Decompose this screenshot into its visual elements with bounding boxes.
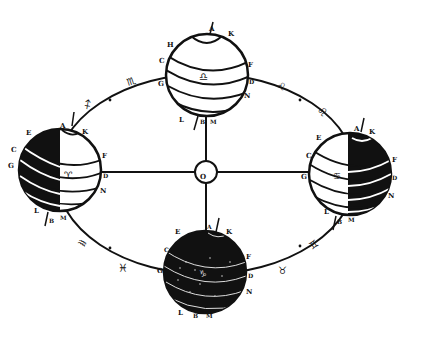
svg-text:G: G (8, 161, 14, 170)
sun-label: O (200, 172, 206, 181)
sun: O (195, 161, 217, 183)
svg-text:E: E (175, 227, 180, 236)
svg-text:A: A (208, 24, 215, 33)
svg-text:H: H (167, 40, 174, 49)
svg-text:D: D (392, 174, 397, 181)
zodiac-aquarius-icon: ♒ (75, 235, 90, 251)
svg-text:L: L (179, 115, 184, 124)
svg-text:F: F (248, 60, 253, 69)
seasons-orbit-diagram: O ♎ A K H C G F D N L B M (0, 0, 422, 343)
svg-text:F: F (102, 151, 107, 160)
svg-text:C: C (306, 151, 312, 160)
svg-text:K: K (226, 227, 233, 236)
globe-left: ♈ A K E C G F D N L B M (8, 112, 108, 226)
svg-text:B: B (337, 218, 342, 225)
svg-text:B: B (49, 217, 54, 224)
globe-left-sign: ♈ (64, 170, 73, 180)
globe-right: ♋ A K E C G F D N L B M (301, 118, 397, 230)
svg-text:F: F (392, 155, 397, 164)
svg-text:D: D (249, 78, 254, 85)
svg-text:C: C (164, 246, 169, 253)
svg-text:N: N (246, 287, 253, 296)
svg-text:B: B (200, 118, 205, 125)
svg-text:B: B (193, 312, 198, 319)
svg-text:L: L (178, 308, 183, 317)
svg-text:M: M (210, 118, 217, 125)
svg-text:N: N (388, 191, 395, 200)
zodiac-pisces-icon: ♓ (118, 262, 128, 275)
svg-text:D: D (103, 172, 108, 179)
globe-top-sign: ♎ (199, 71, 208, 82)
svg-text:K: K (82, 127, 89, 136)
svg-text:F: F (246, 252, 251, 261)
svg-text:L: L (34, 206, 39, 215)
svg-text:M: M (348, 216, 355, 223)
svg-text:L: L (324, 207, 329, 216)
svg-text:G: G (301, 172, 307, 181)
svg-text:N: N (100, 186, 107, 195)
globe-bottom: ♑ A K E C G F D N L B M (157, 218, 253, 319)
svg-text:M: M (206, 312, 213, 319)
svg-text:D: D (248, 272, 253, 279)
svg-text:C: C (11, 145, 17, 154)
svg-text:C: C (159, 56, 165, 65)
svg-text:A: A (59, 121, 66, 130)
svg-text:E: E (26, 128, 31, 137)
svg-text:K: K (228, 29, 235, 38)
svg-text:A: A (206, 223, 212, 230)
svg-text:A: A (353, 124, 360, 133)
svg-text:G: G (158, 79, 164, 88)
globe-top: ♎ A K H C G F D N L B M (158, 22, 254, 130)
zodiac-leo-icon: ♌ (275, 80, 287, 93)
svg-text:G: G (157, 266, 163, 275)
globe-right-sign: ♋ (333, 171, 341, 181)
svg-text:K: K (369, 127, 376, 136)
svg-text:N: N (244, 91, 251, 100)
globe-bottom-sign: ♑ (199, 269, 207, 279)
svg-text:M: M (60, 214, 67, 221)
svg-text:E: E (316, 133, 321, 142)
zodiac-taurus-icon: ♉ (278, 265, 287, 276)
